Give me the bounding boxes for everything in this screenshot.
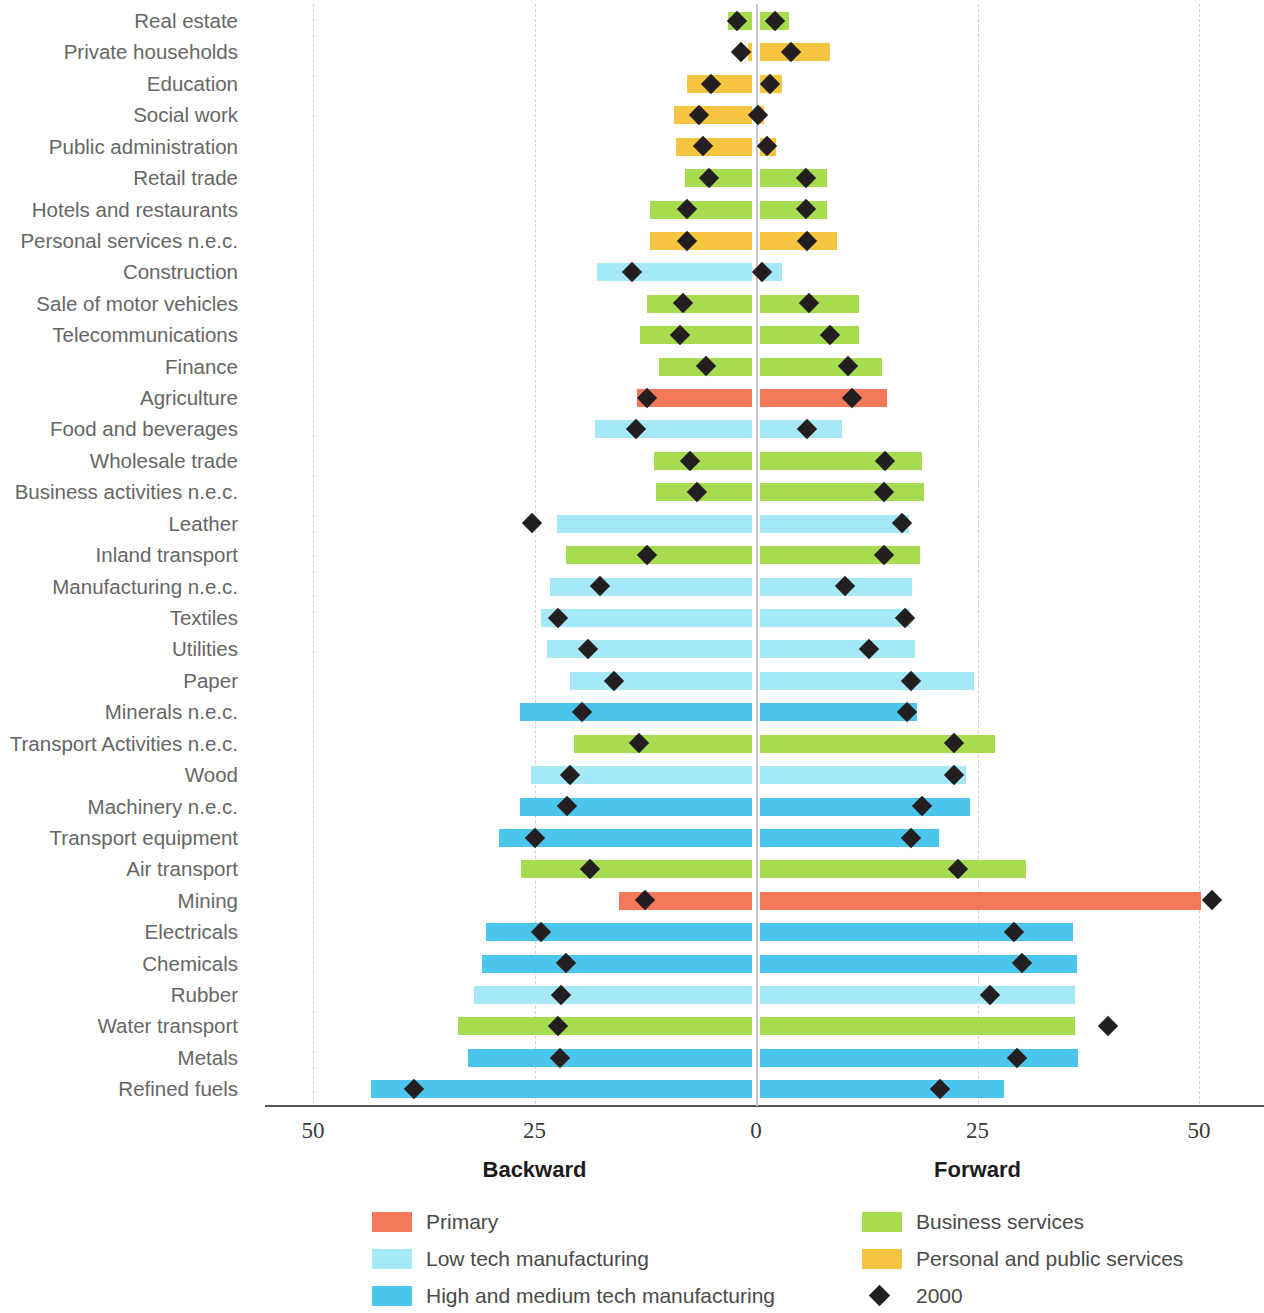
chart-row: Chemicals: [0, 948, 1264, 979]
chart-row: Rubber: [0, 979, 1264, 1010]
forward-bar: [760, 703, 918, 721]
backward-bar: [654, 452, 752, 470]
forward-bar: [760, 986, 1075, 1004]
category-label: Personal services n.e.c.: [0, 225, 250, 256]
category-label: Wholesale trade: [0, 445, 250, 476]
forward-bar: [760, 640, 916, 658]
chart-row: Wholesale trade: [0, 445, 1264, 476]
category-label: Transport equipment: [0, 822, 250, 853]
category-label: Chemicals: [0, 948, 250, 979]
forward-bar: [760, 515, 910, 533]
category-label: Hotels and restaurants: [0, 194, 250, 225]
zero-axis-line: [756, 4, 758, 1106]
backward-bar: [371, 1080, 753, 1098]
chart-row: Water transport: [0, 1010, 1264, 1041]
category-label: Textiles: [0, 602, 250, 633]
forward-bar: [760, 326, 859, 344]
backward-bar: [521, 860, 752, 878]
legend-swatch: [862, 1212, 902, 1232]
category-label: Machinery n.e.c.: [0, 791, 250, 822]
forward-bar: [760, 1017, 1075, 1035]
chart-row: Utilities: [0, 633, 1264, 664]
forward-bar: [760, 1049, 1079, 1067]
legend-swatch: [372, 1212, 412, 1232]
legend-label: Low tech manufacturing: [426, 1247, 649, 1271]
category-label: Sale of motor vehicles: [0, 288, 250, 319]
backward-bar: [647, 295, 752, 313]
legend-swatch: [372, 1286, 412, 1306]
x-tick-label: 0: [716, 1118, 796, 1144]
chart-row: Retail trade: [0, 162, 1264, 193]
diverging-bar-chart: Real estatePrivate householdsEducationSo…: [0, 0, 1264, 1110]
legend-item[interactable]: 2000: [862, 1279, 963, 1313]
category-label: Utilities: [0, 633, 250, 664]
forward-bar: [760, 672, 974, 690]
marker-2000-forward-icon: [1202, 890, 1222, 910]
legend-item[interactable]: Low tech manufacturing: [372, 1242, 649, 1276]
backward-bar: [474, 986, 752, 1004]
chart-row: Paper: [0, 665, 1264, 696]
x-tick-label: 50: [1159, 1118, 1239, 1144]
forward-bar: [760, 483, 925, 501]
category-label: Agriculture: [0, 382, 250, 413]
chart-row: Telecommunications: [0, 319, 1264, 350]
chart-row: Machinery n.e.c.: [0, 791, 1264, 822]
forward-bar: [760, 860, 1027, 878]
legend-label: High and medium tech manufacturing: [426, 1284, 775, 1308]
chart-legend: PrimaryLow tech manufacturingHigh and me…: [0, 1205, 1264, 1313]
chart-row: Minerals n.e.c.: [0, 696, 1264, 727]
chart-row: Transport equipment: [0, 822, 1264, 853]
category-label: Construction: [0, 256, 250, 287]
category-label: Paper: [0, 665, 250, 696]
category-label: Public administration: [0, 131, 250, 162]
chart-row: Wood: [0, 759, 1264, 790]
category-label: Private households: [0, 36, 250, 67]
legend-swatch: [372, 1249, 412, 1269]
forward-bar: [760, 452, 922, 470]
chart-row: Agriculture: [0, 382, 1264, 413]
category-label: Education: [0, 68, 250, 99]
chart-row: Textiles: [0, 602, 1264, 633]
legend-item[interactable]: Primary: [372, 1205, 498, 1239]
legend-item[interactable]: High and medium tech manufacturing: [372, 1279, 775, 1313]
forward-axis-label: Forward: [878, 1157, 1078, 1183]
category-label: Mining: [0, 885, 250, 916]
chart-row: Manufacturing n.e.c.: [0, 571, 1264, 602]
backward-bar: [520, 798, 752, 816]
x-tick-label: 50: [273, 1118, 353, 1144]
legend-item[interactable]: Business services: [862, 1205, 1084, 1239]
backward-bar: [566, 546, 753, 564]
chart-row: Electricals: [0, 916, 1264, 947]
chart-row: Air transport: [0, 853, 1264, 884]
chart-row: Transport Activities n.e.c.: [0, 728, 1264, 759]
forward-bar: [760, 923, 1074, 941]
chart-row: Real estate: [0, 5, 1264, 36]
forward-bar: [760, 798, 971, 816]
forward-bar: [760, 892, 1201, 910]
forward-bar: [760, 358, 882, 376]
chart-row: Sale of motor vehicles: [0, 288, 1264, 319]
chart-row: Food and beverages: [0, 413, 1264, 444]
backward-bar: [676, 138, 752, 156]
legend-item[interactable]: Personal and public services: [862, 1242, 1183, 1276]
forward-bar: [760, 1080, 1005, 1098]
forward-bar: [760, 389, 888, 407]
chart-row: Metals: [0, 1042, 1264, 1073]
forward-bar: [760, 169, 827, 187]
chart-row: Private households: [0, 36, 1264, 67]
forward-bar: [760, 609, 911, 627]
category-label: Leather: [0, 508, 250, 539]
chart-row: Construction: [0, 256, 1264, 287]
backward-bar: [650, 232, 753, 250]
forward-bar: [760, 546, 920, 564]
category-label: Metals: [0, 1042, 250, 1073]
category-label: Retail trade: [0, 162, 250, 193]
category-label: Food and beverages: [0, 413, 250, 444]
category-label: Transport Activities n.e.c.: [0, 728, 250, 759]
x-tick-label: 25: [495, 1118, 575, 1144]
chart-row: Inland transport: [0, 539, 1264, 570]
chart-row: Leather: [0, 508, 1264, 539]
forward-bar: [760, 766, 966, 784]
legend-swatch: [862, 1249, 902, 1269]
backward-bar: [597, 263, 753, 281]
